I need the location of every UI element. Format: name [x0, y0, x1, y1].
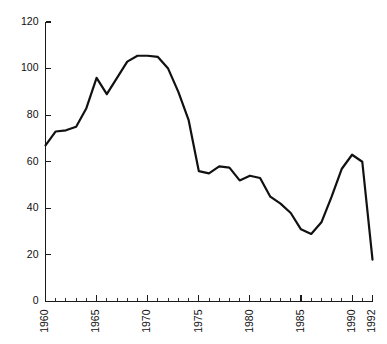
y-tick-label: 80 [27, 108, 39, 120]
x-tick-label: 1975 [192, 309, 204, 333]
y-tick-label: 120 [21, 15, 39, 27]
line-chart: 020406080100120 196019651970197519801985… [0, 0, 387, 344]
y-tick-label: 0 [33, 294, 39, 306]
x-tick-label: 1985 [294, 309, 306, 333]
x-axis-tick-labels: 19601965197019751980198519901992 [38, 309, 377, 333]
x-tick-label: 1990 [345, 309, 357, 333]
x-tick-label: 1960 [38, 309, 50, 333]
y-axis-ticks [46, 22, 51, 302]
x-tick-label: 1970 [140, 309, 152, 333]
x-tick-label: 1965 [89, 309, 101, 333]
chart-axes [45, 22, 373, 302]
x-tick-label: 1980 [243, 309, 255, 333]
y-tick-label: 100 [21, 61, 39, 73]
y-tick-label: 60 [27, 155, 39, 167]
x-axis-ticks [46, 295, 373, 302]
data-series-line [46, 56, 373, 260]
y-axis-tick-labels: 020406080100120 [21, 15, 39, 307]
x-tick-label: 1992 [365, 309, 377, 333]
y-tick-label: 20 [27, 248, 39, 260]
y-tick-label: 40 [27, 201, 39, 213]
chart-plot-area: 020406080100120 196019651970197519801985… [0, 0, 387, 344]
